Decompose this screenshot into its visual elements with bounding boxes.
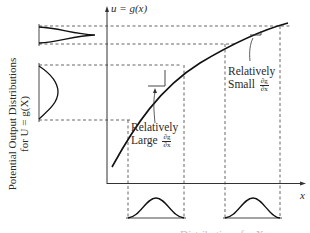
annotation-arrow-small — [250, 38, 253, 61]
caption-line-2: for U = g(X) — [18, 44, 30, 204]
annotation-arrow-large — [154, 92, 155, 123]
wide-output-distribution — [39, 66, 58, 119]
output-distributions-caption: Potential Output Distributions for U = g… — [6, 44, 30, 204]
arrowhead-large-icon — [153, 88, 157, 93]
slope-triangle-large — [148, 70, 165, 86]
narrow-output-distribution — [39, 27, 95, 43]
annotation-large-line2: Large — [131, 134, 158, 146]
annotation-large-line1: Relatively — [131, 121, 178, 134]
frac-denominator: ∂x — [162, 142, 171, 149]
y-axis-arrow-icon — [105, 6, 109, 12]
x-axis-label: x — [300, 189, 305, 201]
frac-denominator: ∂x — [260, 86, 269, 93]
annotation-small-line1: Relatively — [228, 65, 275, 78]
x-axis-arrow-icon — [300, 182, 306, 186]
bottom-caption-partial: Distributions for X — [180, 228, 264, 233]
annotation-large-slope: Relatively Large ∂g ∂x — [131, 121, 178, 149]
annotation-small-slope: Relatively Small ∂g ∂x — [228, 65, 275, 93]
caption-line-1: Potential Output Distributions — [6, 44, 18, 204]
input-distribution-1 — [128, 198, 184, 218]
y-axis-label: u = g(x) — [111, 2, 147, 14]
derivative-fraction-small: ∂g ∂x — [260, 78, 269, 93]
annotation-small-line2: Small — [228, 78, 255, 90]
diagram-canvas — [0, 0, 310, 233]
input-distribution-2 — [225, 198, 280, 218]
derivative-fraction-large: ∂g ∂x — [162, 134, 171, 149]
